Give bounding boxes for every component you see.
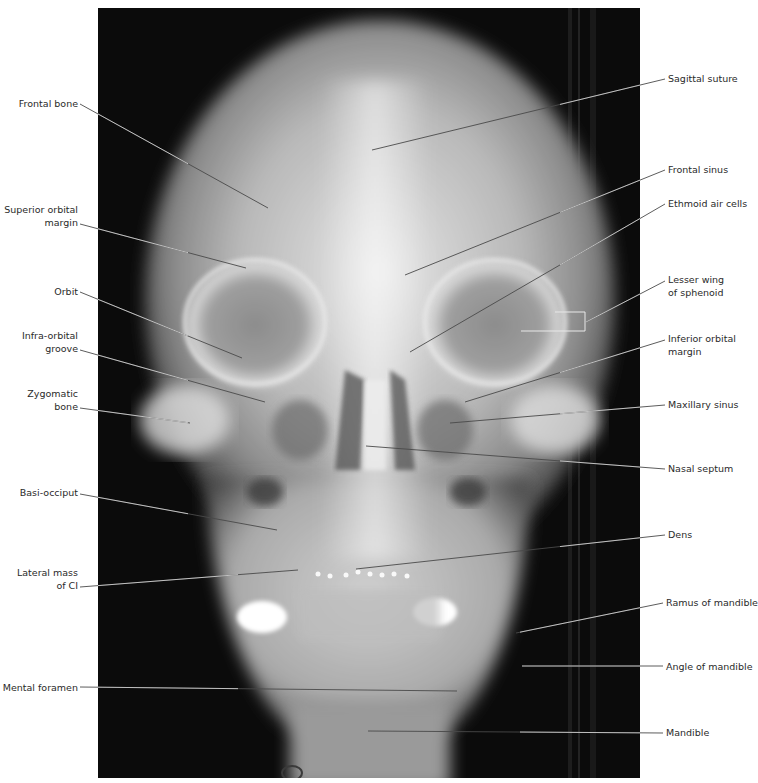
label-text-line: Ramus of mandible [666,597,758,610]
label-mandible: Mandible [666,727,709,740]
label-text-line: Angle of mandible [666,661,753,674]
label-angle-of-mandible: Angle of mandible [666,661,753,674]
label-text-line: of sphenoid [668,287,724,300]
label-text-line: margin [4,217,78,230]
label-inferior-orbital-margin: Inferior orbitalmargin [668,333,736,358]
label-text-line: Orbit [54,286,78,299]
label-text-line: bone [27,401,78,414]
label-mental-foramen: Mental foramen [3,682,78,695]
label-frontal-sinus: Frontal sinus [668,164,728,177]
label-dens: Dens [668,529,692,542]
label-lesser-wing-of-sphenoid: Lesser wingof sphenoid [668,274,724,299]
label-text-line: Frontal bone [19,98,78,111]
label-infra-orbital-groove: Infra-orbitalgroove [22,330,78,355]
label-lateral-mass-of-c1: Lateral massof CI [17,567,78,592]
label-superior-orbital-margin: Superior orbitalmargin [4,204,78,229]
label-text-line: Zygomatic [27,388,78,401]
label-maxillary-sinus: Maxillary sinus [668,399,739,412]
label-text-line: of CI [17,580,78,593]
label-zygomatic-bone: Zygomaticbone [27,388,78,413]
label-basi-occiput: Basi-occiput [20,487,78,500]
label-nasal-septum: Nasal septum [668,463,733,476]
label-text-line: Mental foramen [3,682,78,695]
label-text-line: Lesser wing [668,274,724,287]
label-text-line: Dens [668,529,692,542]
label-sagittal-suture: Sagittal suture [668,73,738,86]
label-orbit: Orbit [54,286,78,299]
label-ramus-of-mandible: Ramus of mandible [666,597,758,610]
label-text-line: groove [22,343,78,356]
label-text-line: Maxillary sinus [668,399,739,412]
label-text-line: Lateral mass [17,567,78,580]
label-text-line: margin [668,346,736,359]
left-dental-filling [237,601,287,633]
label-text-line: Sagittal suture [668,73,738,86]
label-text-line: Infra-orbital [22,330,78,343]
label-text-line: Frontal sinus [668,164,728,177]
label-text-line: Nasal septum [668,463,733,476]
label-text-line: Mandible [666,727,709,740]
label-ethmoid-air-cells: Ethmoid air cells [668,198,747,211]
label-text-line: Ethmoid air cells [668,198,747,211]
label-text-line: Superior orbital [4,204,78,217]
label-text-line: Basi-occiput [20,487,78,500]
label-frontal-bone: Frontal bone [19,98,78,111]
label-text-line: Inferior orbital [668,333,736,346]
